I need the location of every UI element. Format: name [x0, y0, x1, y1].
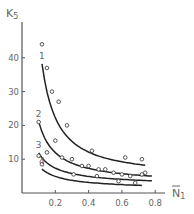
data-point: [50, 90, 54, 94]
x-tick-label: 0.2: [49, 198, 63, 208]
data-point: [54, 139, 58, 143]
data-point: [123, 156, 127, 160]
data-point: [128, 174, 132, 178]
data-point: [37, 120, 41, 124]
series-4-label: 4: [39, 156, 45, 166]
data-point: [65, 124, 69, 128]
y-tick-label: 30: [8, 87, 19, 97]
data-point: [133, 181, 137, 185]
data-point: [70, 157, 74, 161]
data-point: [97, 168, 101, 172]
data-point: [87, 164, 91, 168]
x-tick-label: 0.8: [148, 198, 162, 208]
data-point: [117, 179, 121, 183]
y-tick-label: 20: [8, 120, 19, 130]
series-3-label: 3: [36, 140, 42, 150]
series-2-label: 2: [36, 109, 42, 119]
data-point: [112, 171, 116, 175]
data-point: [72, 173, 76, 177]
data-point: [40, 42, 44, 46]
chart: K5N1102030400.20.40.60.81234: [0, 0, 194, 214]
data-point: [90, 149, 94, 153]
data-point: [120, 173, 124, 177]
y-tick-label: 40: [8, 53, 19, 63]
data-point: [80, 164, 84, 168]
data-point: [45, 151, 49, 155]
data-point: [95, 174, 99, 178]
y-tick-label: 10: [8, 154, 19, 164]
data-point: [103, 168, 107, 172]
data-point: [45, 66, 49, 70]
data-point: [57, 100, 61, 104]
x-axis-label: N1: [172, 187, 185, 201]
data-point: [60, 156, 64, 160]
data-point: [140, 157, 144, 161]
data-point: [143, 171, 147, 175]
series-1-label: 1: [39, 51, 45, 61]
x-tick-label: 0.6: [115, 198, 129, 208]
y-axis-label: K5: [6, 7, 18, 21]
x-tick-label: 0.4: [82, 198, 96, 208]
